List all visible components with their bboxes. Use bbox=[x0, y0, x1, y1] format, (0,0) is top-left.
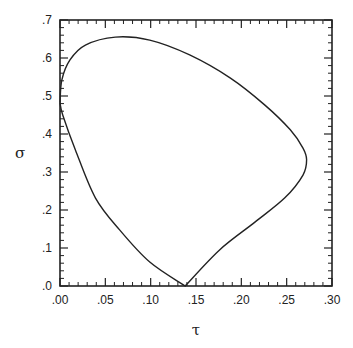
data-curve bbox=[60, 37, 307, 286]
y-tick-label: .4 bbox=[42, 127, 52, 141]
x-tick-label: .10 bbox=[142, 293, 159, 307]
x-tick-labels: .00.05.10.15.20.25.30 bbox=[52, 293, 341, 307]
x-tick-label: .15 bbox=[188, 293, 205, 307]
axis-ticks bbox=[60, 20, 332, 286]
x-axis-label: τ bbox=[192, 321, 200, 339]
y-axis-label: σ bbox=[15, 144, 25, 162]
y-tick-label: .7 bbox=[42, 13, 52, 27]
chart: .00.05.10.15.20.25.30 .0.1.2.3.4.5.6.7 τ… bbox=[0, 0, 353, 348]
x-tick-label: .25 bbox=[278, 293, 295, 307]
y-tick-labels: .0.1.2.3.4.5.6.7 bbox=[42, 13, 52, 293]
x-tick-label: .20 bbox=[233, 293, 250, 307]
y-tick-label: .6 bbox=[42, 51, 52, 65]
y-tick-label: .1 bbox=[42, 241, 52, 255]
y-tick-label: .0 bbox=[42, 279, 52, 293]
y-tick-label: .2 bbox=[42, 203, 52, 217]
y-tick-label: .5 bbox=[42, 89, 52, 103]
x-tick-label: .30 bbox=[324, 293, 341, 307]
x-tick-label: .05 bbox=[97, 293, 114, 307]
y-tick-label: .3 bbox=[42, 165, 52, 179]
plot-frame bbox=[60, 20, 332, 286]
x-tick-label: .00 bbox=[52, 293, 69, 307]
